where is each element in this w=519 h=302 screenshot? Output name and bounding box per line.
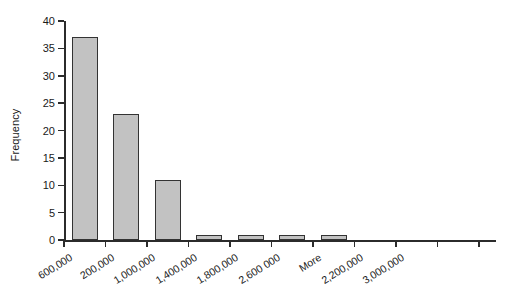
y-axis-tick-label: 30	[3, 70, 55, 82]
bar	[238, 235, 264, 240]
x-axis-tick	[188, 241, 190, 247]
y-axis-tick	[58, 102, 64, 104]
x-axis-tick	[437, 241, 439, 247]
x-axis-tick	[312, 241, 314, 247]
x-axis-tick	[146, 241, 148, 247]
x-axis-tick-label: 3,000,000	[360, 251, 406, 286]
x-axis-tick	[271, 241, 273, 247]
y-axis-tick-label: 5	[3, 207, 55, 219]
x-axis-tick-label: 200,000	[77, 251, 116, 281]
y-axis-tick	[58, 20, 64, 22]
y-axis-tick-label: 15	[3, 152, 55, 164]
y-axis-tick-label: 20	[3, 125, 55, 137]
y-axis-tick	[58, 157, 64, 159]
x-axis-tick	[395, 241, 397, 247]
x-axis-line	[64, 240, 496, 242]
x-axis-tick	[63, 241, 65, 247]
y-axis-tick	[58, 130, 64, 132]
y-axis-tick	[58, 212, 64, 214]
x-axis-tick-label: 1,800,000	[194, 251, 240, 286]
y-axis-tick-label: 10	[3, 179, 55, 191]
y-axis-tick	[58, 75, 64, 77]
x-axis-tick-label: 2,200,000	[319, 251, 365, 286]
y-axis-tick-label: 25	[3, 97, 55, 109]
y-axis-tick-label: 35	[3, 42, 55, 54]
bar	[279, 235, 305, 240]
x-axis-tick	[354, 241, 356, 247]
x-axis-tick	[478, 241, 480, 247]
bar	[113, 114, 139, 240]
x-axis-tick-label: 2,600 000	[236, 251, 282, 286]
x-axis-tick-label: 600,000	[36, 251, 75, 281]
y-axis-line	[64, 21, 66, 241]
y-axis-tick	[58, 185, 64, 187]
histogram-chart: Frequency 0510152025303540 600,000200,00…	[0, 0, 519, 302]
x-axis-tick-label: More	[297, 251, 324, 274]
x-axis-tick	[105, 241, 107, 247]
bar	[321, 235, 347, 240]
y-axis-tick-label: 40	[3, 15, 55, 27]
bar	[196, 235, 222, 240]
x-axis-tick	[229, 241, 231, 247]
x-axis-tick-label: 1,400,000	[153, 251, 199, 286]
bar	[155, 180, 181, 240]
x-axis-tick-label: 1,000,000	[111, 251, 157, 286]
y-axis-tick-label: 0	[3, 234, 55, 246]
y-axis-tick	[58, 48, 64, 50]
bar	[72, 37, 98, 240]
